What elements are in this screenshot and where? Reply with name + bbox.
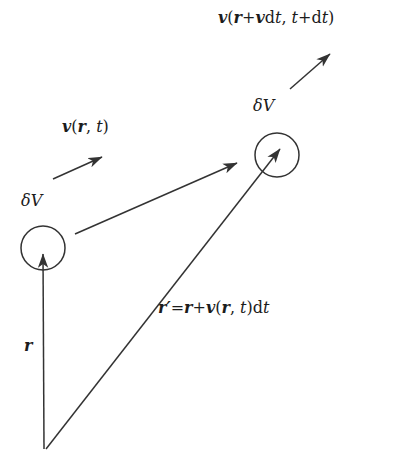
velocity-advected-comma: , xyxy=(281,8,291,27)
delta-symbol-initial: δ xyxy=(21,191,31,210)
velocity-advected-v2: v xyxy=(255,8,264,27)
position-vector-r-arrow xyxy=(43,254,44,449)
velocity-field-v: v xyxy=(62,117,71,136)
argument-comma: , xyxy=(230,298,240,317)
volume-symbol-advected: V xyxy=(263,96,275,115)
r-prime-symbol: r′ xyxy=(158,298,171,317)
fluid-element-circle-advected xyxy=(255,133,299,177)
vector-diagram-figure: v(r+vdt, t+dt) v(r, t) δV δV r′=r+v(r, t… xyxy=(0,0,419,467)
differential-d: d xyxy=(253,298,263,317)
equals-sign: = xyxy=(171,298,184,317)
displacement-arrow xyxy=(75,163,237,234)
velocity-advected-plus: + xyxy=(242,8,255,27)
volume-symbol-initial: V xyxy=(31,191,43,210)
position-prime-equation-label: r′=r+v(r, t)dt xyxy=(158,300,269,316)
velocity-field-comma: , xyxy=(86,117,96,136)
velocity-advected-close-paren: ) xyxy=(328,8,334,27)
plus-sign: + xyxy=(193,298,206,317)
velocity-field-r: r xyxy=(78,117,86,136)
velocity-field-close-paren: ) xyxy=(103,117,109,136)
delta-symbol-advected: δ xyxy=(253,96,263,115)
volume-element-label-advected: δV xyxy=(253,98,274,114)
differential-t: t xyxy=(263,298,269,317)
velocity-field-arrow xyxy=(53,157,102,179)
velocity-advected-plus2: + xyxy=(298,8,311,27)
velocity-field-label: v(r, t) xyxy=(62,119,109,135)
position-r-symbol: r xyxy=(184,298,192,317)
volume-element-label-initial: δV xyxy=(21,193,42,209)
velocity-advected-d2: d xyxy=(311,8,321,27)
velocity-v-symbol: v xyxy=(206,298,215,317)
velocity-advected-label: v(r+vdt, t+dt) xyxy=(218,10,334,26)
velocity-advected-d1: d xyxy=(265,8,275,27)
velocity-advected-v: v xyxy=(218,8,227,27)
position-vector-r-symbol: r xyxy=(24,336,32,355)
diagram-canvas xyxy=(0,0,419,467)
velocity-advected-r: r xyxy=(234,8,242,27)
argument-r-symbol: r xyxy=(221,298,229,317)
velocity-advected-arrow xyxy=(290,54,330,89)
position-vector-label: r xyxy=(24,338,32,354)
